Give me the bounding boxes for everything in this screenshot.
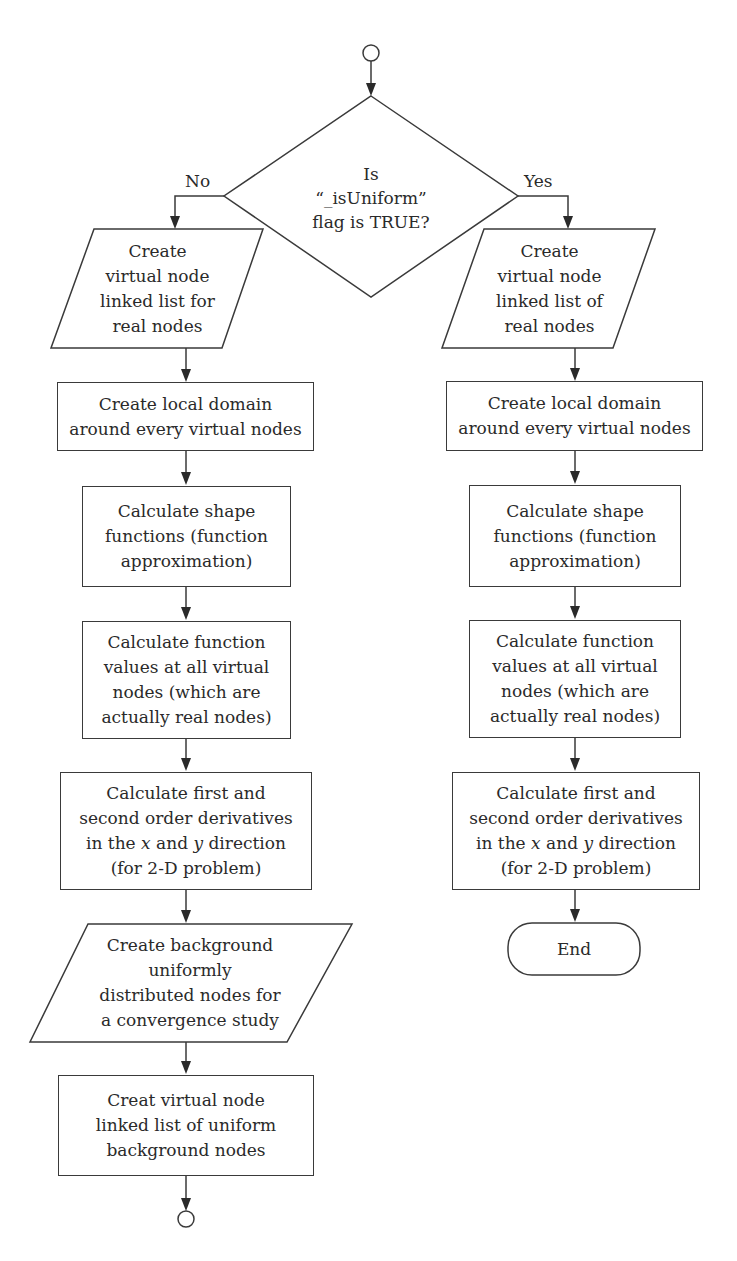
left-step-4-function-values: Calculate function values at all virtual… [82,621,291,739]
right-step-1-create-linked-list: Create virtual node linked list of real … [462,229,637,348]
text-direction: direction [593,833,676,853]
right-step-4-function-values: Calculate function values at all virtual… [469,620,681,738]
derivatives-line-1: Calculate first and [496,781,655,806]
text-and: and [541,833,584,853]
right-step-2-local-domain: Create local domain around every virtual… [446,381,703,451]
end-terminator-label: End [508,923,640,975]
var-y: y [193,833,203,853]
derivatives-line-2: second order derivatives [79,806,293,831]
start-connector [363,45,379,61]
derivatives-line-4: (for 2-D problem) [111,856,262,881]
right-step-3-shape-functions: Calculate shape functions (function appr… [469,485,681,587]
text-and: and [151,833,194,853]
derivatives-line-3: in the x and y direction [476,831,676,856]
left-step-5-derivatives: Calculate first and second order derivat… [60,772,312,890]
var-y: y [583,833,593,853]
text-direction: direction [203,833,286,853]
derivatives-line-4: (for 2-D problem) [501,856,652,881]
left-step-2-local-domain: Create local domain around every virtual… [57,382,314,451]
text-in-the: in the [86,833,141,853]
derivatives-line-2: second order derivatives [469,806,683,831]
var-x: x [141,833,151,853]
left-end-connector [178,1211,194,1227]
derivatives-line-1: Calculate first and [106,781,265,806]
left-step-1-create-linked-list: Create virtual node linked list for real… [70,229,245,348]
yes-branch-label: Yes [524,171,553,191]
derivatives-line-3: in the x and y direction [86,831,286,856]
var-x: x [531,833,541,853]
left-step-6-background-nodes: Create background uniformly distributed … [60,924,320,1042]
no-branch-label: No [185,171,210,191]
text-in-the: in the [476,833,531,853]
decision-text: Is “_isUniform” flag is TRUE? [284,150,458,245]
left-step-7-uniform-linked-list: Creat virtual node linked list of unifor… [58,1075,314,1176]
left-step-3-shape-functions: Calculate shape functions (function appr… [82,486,291,587]
right-step-5-derivatives: Calculate first and second order derivat… [452,772,700,890]
